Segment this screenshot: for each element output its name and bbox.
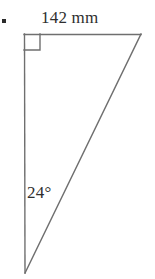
side-length-label: 142 mm	[41, 9, 98, 26]
figure-root: 142 mm 24°	[0, 0, 155, 279]
triangle-hypotenuse	[25, 34, 141, 273]
angle-measure-label: 24°	[27, 184, 51, 201]
right-angle-marker-icon	[24, 34, 40, 50]
right-triangle-figure	[0, 0, 155, 279]
triangle-vertical-leg	[25, 34, 26, 273]
